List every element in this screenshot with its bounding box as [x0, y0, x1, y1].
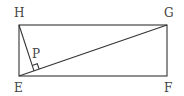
label-f: F [164, 81, 172, 95]
geometry-diagram: H G E F P [0, 0, 184, 96]
diagonal-eg [19, 25, 167, 76]
label-p: P [32, 47, 40, 61]
label-h: H [14, 6, 24, 20]
label-e: E [14, 81, 23, 95]
label-g: G [164, 6, 174, 20]
